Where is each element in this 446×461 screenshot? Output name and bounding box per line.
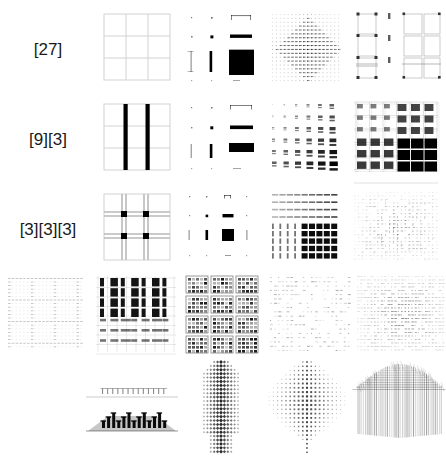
pattern-cell-r3c1 xyxy=(96,186,180,274)
figure-row-2: [9][3] xyxy=(0,96,446,184)
pattern-cell-r5c3 xyxy=(262,356,352,461)
pattern-cell-r5c1 xyxy=(84,356,180,461)
pattern-cell-r4c2 xyxy=(180,272,264,358)
pattern-cell-r3c2 xyxy=(180,186,264,274)
pattern-cell-r3c4 xyxy=(348,186,446,274)
dense-tick-noise-pattern xyxy=(352,272,446,358)
pattern-cell-r1c1 xyxy=(96,6,180,94)
pattern-cell-r4c4 xyxy=(352,272,446,358)
dotted-hexagon-cloud-pattern xyxy=(262,356,352,461)
pattern-cell-r2c3 xyxy=(264,96,348,184)
figure-row-1: [27] xyxy=(0,6,446,94)
pattern-cell-r4c1 xyxy=(92,272,180,358)
vertical-diamond-column-pattern xyxy=(180,356,262,461)
pattern-cell-r5c4 xyxy=(352,356,446,461)
figure-row-4 xyxy=(0,272,446,358)
pattern-grid-figure: [27] xyxy=(0,0,446,461)
pattern-cell-r5c2 xyxy=(180,356,262,461)
figure-row-5 xyxy=(0,356,446,461)
grid-two-vertical-bars-pattern xyxy=(96,96,180,184)
sparse-tick-grid-pattern xyxy=(264,272,352,358)
soft-noise-lattice-pattern xyxy=(348,186,446,274)
pattern-cell-r2c4 xyxy=(348,96,446,184)
scaled-nodes-4x4-pattern xyxy=(180,186,264,274)
row-label-1: [27] xyxy=(0,6,96,94)
row-label-2: [9][3] xyxy=(0,96,96,184)
faint-grid-pattern xyxy=(0,272,92,358)
tiled-module-grid-pattern xyxy=(180,272,264,358)
pattern-cell-r4c3 xyxy=(264,272,352,358)
row-label-3: [3][3][3] xyxy=(0,186,96,274)
pattern-cell-r1c3: {} xyxy=(264,6,348,94)
heavy-column-grid-pattern xyxy=(92,272,180,358)
pattern-cell-r1c2 xyxy=(180,6,264,94)
streaked-dome-pattern xyxy=(352,356,446,461)
dense-quadrant-blocks-pattern xyxy=(348,96,446,184)
pattern-cell-r3c3 xyxy=(264,186,348,274)
pattern-cell-r5c0 xyxy=(0,356,84,461)
fine-dotted-lattice-pattern: {} xyxy=(264,6,348,94)
pattern-cell-r2c1 xyxy=(96,96,180,184)
perspective-strips-pattern xyxy=(84,356,180,461)
plain-3x3-grid-pattern xyxy=(96,6,180,94)
scaled-blocks-3x3-pattern xyxy=(180,6,264,94)
scaled-bars-3x3-pattern xyxy=(180,96,264,184)
figure-row-3: [3][3][3] xyxy=(0,186,446,274)
double-grid-nodes-pattern xyxy=(96,186,180,274)
block-cluster-lattice-pattern xyxy=(264,96,348,184)
nested-frame-grid-pattern xyxy=(348,6,446,94)
striped-block-lattice-pattern xyxy=(264,186,348,274)
pattern-cell-r2c2 xyxy=(180,96,264,184)
pattern-cell-r1c4 xyxy=(348,6,446,94)
pattern-cell-r4c0 xyxy=(0,272,92,358)
